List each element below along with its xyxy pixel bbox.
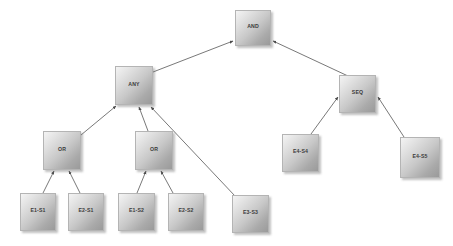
edge-seq-to-and xyxy=(273,41,348,76)
node-label-e4s4: E4-S4 xyxy=(293,149,308,154)
node-label-seq: SEQ xyxy=(352,90,363,95)
edge-any-to-and xyxy=(153,41,233,72)
node-e1s1[interactable]: E1-S1 xyxy=(20,193,56,231)
node-and[interactable]: AND xyxy=(235,10,271,46)
node-or1[interactable]: OR xyxy=(43,131,81,170)
node-label-or1: OR xyxy=(58,147,66,152)
node-e1s2[interactable]: E1-S2 xyxy=(118,193,155,231)
node-label-or2: OR xyxy=(150,147,158,152)
node-e4s4[interactable]: E4-S4 xyxy=(282,134,319,172)
edge-e1s2-to-or2 xyxy=(137,171,146,193)
edges xyxy=(43,41,404,196)
node-label-e3s3: E3-S3 xyxy=(243,210,258,215)
edge-or2-to-any xyxy=(139,107,148,131)
node-or2[interactable]: OR xyxy=(135,131,173,170)
node-label-e4s5: E4-S5 xyxy=(412,154,427,159)
node-seq[interactable]: SEQ xyxy=(339,75,376,113)
node-e3s3[interactable]: E3-S3 xyxy=(232,195,269,233)
node-label-e1s1: E1-S1 xyxy=(30,208,45,213)
node-e4s5[interactable]: E4-S5 xyxy=(400,137,440,178)
node-label-any: ANY xyxy=(128,82,139,87)
edge-e2s2-to-or2 xyxy=(161,171,173,193)
node-label-e1s2: E1-S2 xyxy=(129,208,144,213)
node-label-e2s1: E2-S1 xyxy=(78,208,93,213)
node-e2s1[interactable]: E2-S1 xyxy=(68,193,104,231)
edge-e4s5-to-seq xyxy=(378,97,404,137)
node-e2s2[interactable]: E2-S2 xyxy=(168,193,204,231)
edge-e2s1-to-or1 xyxy=(69,171,80,193)
edge-e4s4-to-seq xyxy=(311,97,338,134)
edge-or1-to-any xyxy=(81,106,116,135)
node-label-and: AND xyxy=(247,24,259,29)
node-label-e2s2: E2-S2 xyxy=(178,208,193,213)
attack-tree-diagram: ANDANYSEQORORE4-S4E4-S5E1-S1E2-S1E1-S2E2… xyxy=(0,0,453,246)
node-any[interactable]: ANY xyxy=(115,66,153,105)
edge-e1s1-to-or1 xyxy=(43,171,54,193)
